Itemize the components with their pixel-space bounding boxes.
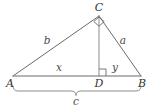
vertex-label-A: A xyxy=(6,78,14,89)
segment-CB xyxy=(99,16,141,76)
vertex-label-D: D xyxy=(95,78,104,89)
side-label-y: y xyxy=(112,62,118,73)
side-label-x: x xyxy=(56,62,62,73)
side-label-b: b xyxy=(44,35,51,46)
geometry-figure: A C B D b a x y c xyxy=(0,0,152,110)
right-angle-marker-D xyxy=(99,69,106,76)
vertex-label-B: B xyxy=(138,78,146,89)
brace-label-c: c xyxy=(73,96,79,107)
figure-canvas xyxy=(0,0,152,110)
vertex-label-C: C xyxy=(95,2,103,13)
side-label-a: a xyxy=(120,35,126,46)
